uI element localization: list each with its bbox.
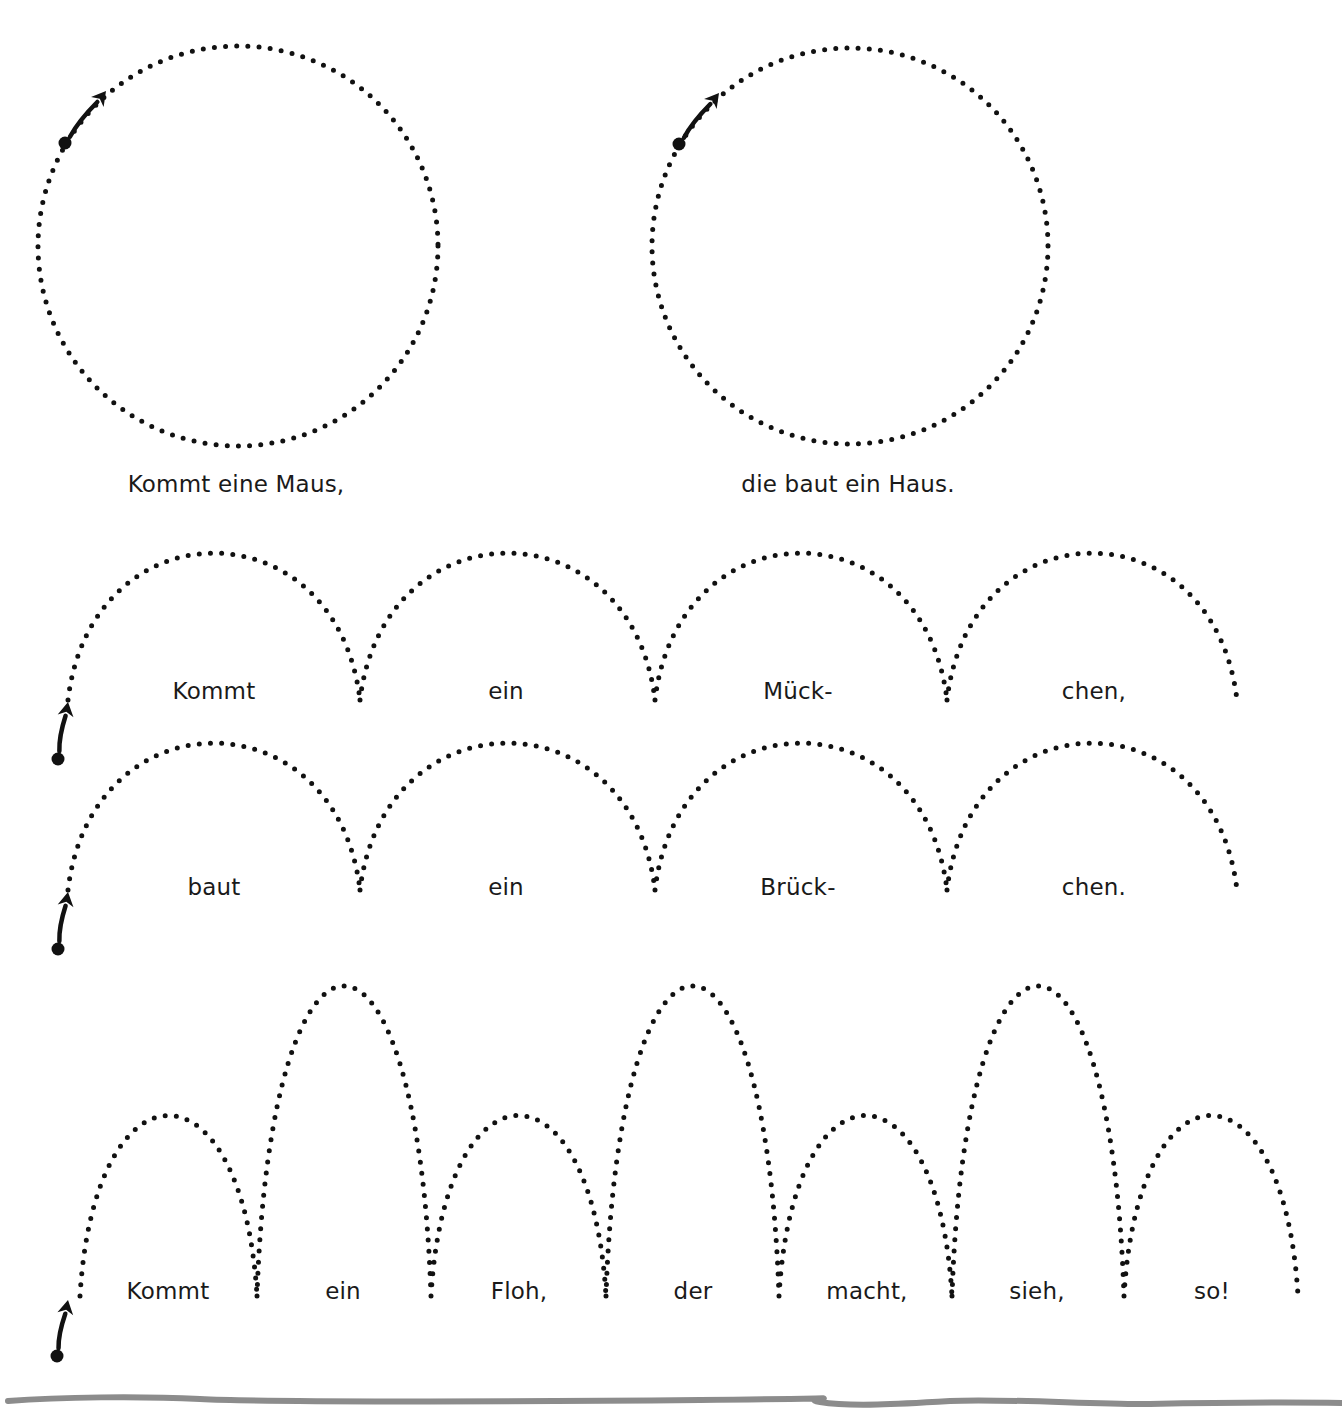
start-dot-icon <box>52 943 65 956</box>
arch-word: Mück- <box>763 677 833 705</box>
flea-word: der <box>674 1277 713 1305</box>
arch-word: ein <box>488 873 524 901</box>
dotted-flea-jumps <box>80 986 1298 1296</box>
arch-word: ein <box>488 677 524 705</box>
start-dot-icon <box>52 753 65 766</box>
arch-word: chen. <box>1062 873 1126 901</box>
start-arrow-icon <box>673 93 720 151</box>
bottom-rule-line <box>8 1397 1342 1404</box>
tracing-arches <box>68 553 1237 890</box>
flea-word: macht, <box>826 1277 907 1305</box>
arch-word: chen, <box>1062 677 1126 705</box>
start-arrow-icon <box>52 702 74 766</box>
tracing-flea-jumps <box>80 986 1298 1296</box>
tracing-circles <box>38 46 1048 446</box>
arch-word: baut <box>187 873 240 901</box>
flea-word: Floh, <box>491 1277 548 1305</box>
arch-word: Kommt <box>173 677 256 705</box>
dotted-circle <box>38 46 438 446</box>
flea-word: so! <box>1194 1277 1230 1305</box>
flea-word: Kommt <box>127 1277 210 1305</box>
flea-word: sieh, <box>1009 1277 1064 1305</box>
arch-word: Brück- <box>760 873 835 901</box>
start-arrow-icon <box>52 892 74 956</box>
flea-word: ein <box>325 1277 361 1305</box>
circle-caption: die baut ein Haus. <box>741 470 954 498</box>
dotted-arches <box>68 743 1237 890</box>
start-markers <box>51 91 720 1363</box>
start-arrow-icon <box>51 1300 74 1363</box>
circle-caption: Kommt eine Maus, <box>128 470 345 498</box>
dotted-circle <box>652 48 1048 444</box>
start-dot-icon <box>51 1350 64 1363</box>
start-arrow-icon <box>59 91 107 150</box>
